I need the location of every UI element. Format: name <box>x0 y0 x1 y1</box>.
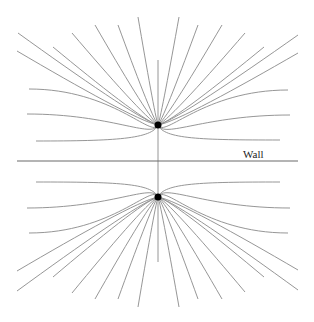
field-line <box>53 47 158 125</box>
field-line <box>17 197 158 291</box>
field-line <box>158 193 290 208</box>
field-line <box>158 197 264 277</box>
field-line <box>158 197 245 292</box>
field-lines-image-charge <box>17 182 298 307</box>
field-line <box>72 197 158 293</box>
field-line <box>138 197 158 307</box>
real-charge-dot <box>155 122 162 129</box>
field-line <box>53 197 158 277</box>
field-line <box>27 193 158 208</box>
field-line <box>18 33 158 125</box>
field-line <box>158 115 290 129</box>
field-line <box>158 125 280 140</box>
field-line <box>158 90 288 128</box>
image-charge-dot <box>155 194 162 201</box>
field-line <box>27 114 158 129</box>
field-line <box>36 182 158 197</box>
field-line <box>158 33 245 125</box>
field-lines-figure: Wall <box>0 0 314 322</box>
field-line <box>158 197 222 299</box>
field-line <box>158 17 179 125</box>
wall-label: Wall <box>243 148 264 160</box>
field-line <box>158 197 298 290</box>
field-line <box>158 35 298 125</box>
field-line <box>158 182 280 197</box>
field-line <box>72 33 158 125</box>
field-line <box>36 125 158 141</box>
wall-charge-field-diagram: Wall <box>0 0 314 322</box>
field-line <box>138 17 158 125</box>
field-line <box>158 47 264 125</box>
field-line <box>158 25 222 125</box>
